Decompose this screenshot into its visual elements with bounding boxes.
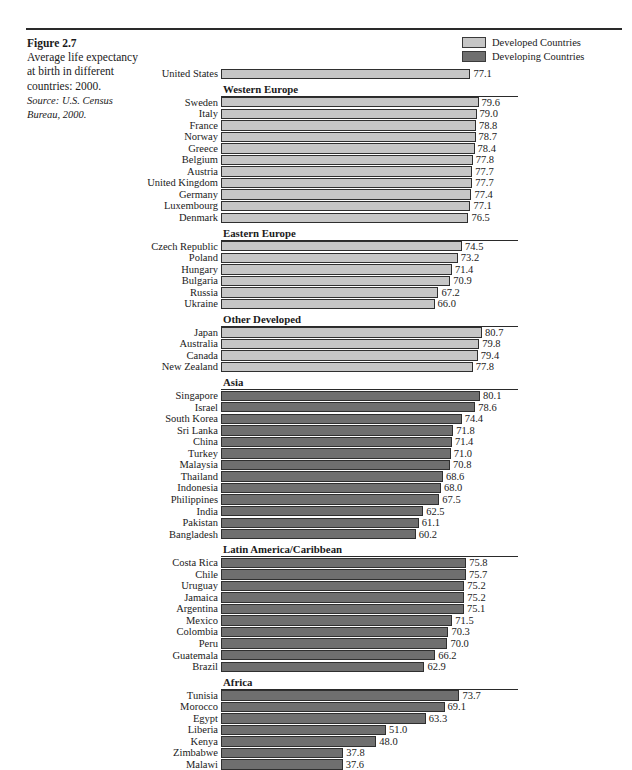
bar-value-label: 37.8 bbox=[346, 747, 364, 759]
country-label: South Korea bbox=[165, 413, 218, 425]
chart-row: Malaysia70.8 bbox=[0, 459, 632, 471]
bar-value-label: 78.4 bbox=[478, 143, 496, 155]
country-label: Costa Rica bbox=[172, 557, 218, 569]
bar-developing bbox=[221, 604, 464, 614]
chart-row: Greece78.4 bbox=[0, 143, 632, 155]
bar-value-label: 80.7 bbox=[485, 327, 503, 339]
bar-developing bbox=[221, 448, 451, 458]
section-header-latin-america-caribbean: Latin America/Caribbean bbox=[0, 544, 632, 557]
bar-developing bbox=[221, 494, 439, 504]
bar-value-label: 62.9 bbox=[427, 661, 445, 673]
bar-value-label: 79.4 bbox=[481, 350, 499, 362]
chart-row: Zimbabwe37.8 bbox=[0, 747, 632, 759]
chart-row: Chile75.7 bbox=[0, 569, 632, 581]
legend-item-developing: Developing Countries bbox=[462, 50, 622, 63]
bar-developed bbox=[221, 143, 475, 153]
bar-developing bbox=[221, 662, 424, 672]
country-label: Jamaica bbox=[184, 592, 218, 604]
bar-value-label: 77.1 bbox=[473, 200, 491, 212]
bar-value-label: 68.0 bbox=[444, 482, 462, 494]
bar-value-label: 73.2 bbox=[461, 252, 479, 264]
section-header-label: Other Developed bbox=[223, 313, 301, 325]
bar-developed bbox=[221, 120, 476, 130]
chart-row: Sweden79.6 bbox=[0, 97, 632, 109]
chart-row: Belgium77.8 bbox=[0, 154, 632, 166]
chart-row: Turkey71.0 bbox=[0, 448, 632, 460]
country-label: India bbox=[196, 506, 218, 518]
chart-row: Australia79.8 bbox=[0, 338, 632, 350]
bar-developing bbox=[221, 638, 447, 648]
chart-row: France78.8 bbox=[0, 120, 632, 132]
country-label: Argentina bbox=[176, 603, 218, 615]
bar-developed bbox=[221, 201, 470, 211]
chart-row: United Kingdom77.7 bbox=[0, 177, 632, 189]
section-header-label: Eastern Europe bbox=[223, 227, 296, 239]
chart-row: Tunisia73.7 bbox=[0, 690, 632, 702]
bar-developing bbox=[221, 391, 480, 401]
bar-developing bbox=[221, 581, 464, 591]
chart-row: Pakistan61.1 bbox=[0, 517, 632, 529]
country-label: Chile bbox=[195, 569, 218, 581]
bar-developing bbox=[221, 518, 419, 528]
country-label: Japan bbox=[194, 327, 218, 339]
country-label: Malawi bbox=[186, 759, 218, 770]
bar-value-label: 71.0 bbox=[454, 448, 472, 460]
chart-row: Russia67.2 bbox=[0, 287, 632, 299]
bar-developed bbox=[221, 178, 472, 188]
bar-value-label: 63.3 bbox=[429, 713, 447, 725]
bar-developed bbox=[221, 327, 482, 337]
bar-value-label: 68.6 bbox=[446, 471, 464, 483]
country-label: Italy bbox=[199, 108, 218, 120]
chart-row: Liberia51.0 bbox=[0, 724, 632, 736]
bar-value-label: 60.2 bbox=[419, 529, 437, 541]
country-label: Belgium bbox=[182, 154, 218, 166]
country-label: Egypt bbox=[193, 713, 218, 725]
bar-value-label: 71.4 bbox=[455, 264, 473, 276]
bar-value-label: 77.8 bbox=[476, 361, 494, 373]
chart-row: Mexico71.5 bbox=[0, 615, 632, 627]
bar-value-label: 70.9 bbox=[453, 275, 471, 287]
chart-row: Italy79.0 bbox=[0, 108, 632, 120]
section-header-label: Africa bbox=[223, 676, 252, 688]
bar-value-label: 77.4 bbox=[474, 189, 492, 201]
bar-developing bbox=[221, 569, 466, 579]
country-label: Bulgaria bbox=[182, 275, 218, 287]
section-header-africa: Africa bbox=[0, 677, 632, 690]
bar-developing bbox=[221, 748, 343, 758]
chart-row: Hungary71.4 bbox=[0, 264, 632, 276]
bar-value-label: 66.2 bbox=[438, 650, 456, 662]
country-label: Malaysia bbox=[180, 459, 219, 471]
bar-value-label: 78.7 bbox=[479, 131, 497, 143]
country-label: China bbox=[193, 436, 218, 448]
country-label: Israel bbox=[195, 402, 218, 414]
country-label: Czech Republic bbox=[151, 241, 218, 253]
bar-value-label: 61.1 bbox=[422, 517, 440, 529]
bar-developing bbox=[221, 460, 450, 470]
country-label: Norway bbox=[184, 131, 218, 143]
chart-row: South Korea74.4 bbox=[0, 413, 632, 425]
bar-value-label: 77.8 bbox=[476, 154, 494, 166]
bar-value-label: 70.8 bbox=[453, 459, 471, 471]
country-label: Uruguay bbox=[181, 580, 218, 592]
bar-value-label: 48.0 bbox=[379, 736, 397, 748]
bar-developing bbox=[221, 437, 452, 447]
bar-value-label: 69.1 bbox=[448, 701, 466, 713]
bar-developing bbox=[221, 414, 462, 424]
bar-developing bbox=[221, 627, 448, 637]
bar-developing bbox=[221, 725, 386, 735]
bar-value-label: 51.0 bbox=[389, 724, 407, 736]
figure-number: Figure 2.7 bbox=[27, 36, 147, 50]
section-header-label: Western Europe bbox=[223, 83, 298, 95]
chart-row: Brazil62.9 bbox=[0, 661, 632, 673]
chart-row: Uruguay75.2 bbox=[0, 580, 632, 592]
bar-value-label: 73.7 bbox=[462, 690, 480, 702]
chart-row: Costa Rica75.8 bbox=[0, 557, 632, 569]
country-label: Morocco bbox=[180, 701, 218, 713]
chart-row: Luxembourg77.1 bbox=[0, 200, 632, 212]
chart-row: Colombia70.3 bbox=[0, 626, 632, 638]
country-label: Guatemala bbox=[173, 650, 218, 662]
bar-value-label: 70.0 bbox=[450, 638, 468, 650]
country-label: Poland bbox=[189, 252, 218, 264]
bar-developed bbox=[221, 264, 452, 274]
